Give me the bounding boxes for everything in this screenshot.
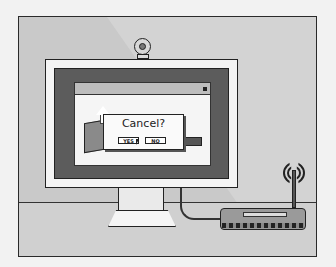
router-status-lights [243, 212, 287, 217]
progress-bar [182, 137, 202, 146]
window-titlebar [74, 82, 211, 95]
no-button[interactable]: NO [145, 137, 166, 144]
dialog-title: Cancel? [103, 117, 184, 130]
router-vents [222, 223, 304, 228]
window-close-icon[interactable] [203, 87, 207, 91]
network-cable [180, 188, 222, 220]
monitor-foot [108, 210, 176, 227]
webcam-lens [139, 43, 146, 50]
mouse-pointer-icon [136, 139, 139, 145]
router-antenna [292, 170, 296, 208]
monitor-neck [118, 188, 164, 210]
